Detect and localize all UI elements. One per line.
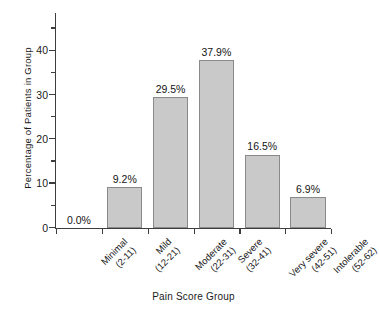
- x-tick: [148, 229, 149, 234]
- bar-value-label: 6.9%: [278, 184, 338, 195]
- y-axis-line: [55, 13, 56, 228]
- x-category-label: Intolerable(52-62): [331, 236, 379, 284]
- y-tick-minor: [51, 27, 55, 28]
- plot-area: 010203040 0.0%9.2%29.5%37.9%16.5%6.9%: [56, 13, 331, 228]
- y-tick-label: 10: [8, 178, 48, 189]
- y-tick-minor: [51, 205, 55, 206]
- y-tick-major: [49, 182, 55, 183]
- x-category-label: Minimal(2-11): [98, 236, 137, 275]
- bar[interactable]: [153, 97, 188, 228]
- bar[interactable]: [245, 155, 280, 228]
- x-axis-title: Pain Score Group: [56, 291, 331, 302]
- y-tick-major: [49, 227, 55, 228]
- x-category-label: Severe(32-41): [235, 236, 273, 274]
- x-category-label: Very severe(42-51): [287, 236, 339, 288]
- bar-value-label: 29.5%: [141, 84, 201, 95]
- bar-value-label: 37.9%: [186, 47, 246, 58]
- bar[interactable]: [290, 197, 325, 228]
- x-tick: [56, 229, 57, 234]
- y-tick-label: 30: [8, 90, 48, 101]
- x-tick: [239, 229, 240, 234]
- bar-value-label: 0.0%: [49, 215, 109, 226]
- bar[interactable]: [199, 60, 234, 228]
- bar[interactable]: [107, 187, 142, 228]
- y-tick-minor: [51, 160, 55, 161]
- y-tick-label: 40: [8, 45, 48, 56]
- x-category-label: Moderate(22-31): [192, 236, 237, 281]
- y-tick-minor: [51, 72, 55, 73]
- y-tick-minor: [51, 116, 55, 117]
- y-tick-label: 20: [8, 134, 48, 145]
- x-tick: [331, 229, 332, 234]
- x-category-label: Mild(12-21): [144, 236, 182, 274]
- bar-value-label: 9.2%: [95, 174, 155, 185]
- bar-value-label: 16.5%: [232, 141, 292, 152]
- x-tick: [285, 229, 286, 234]
- y-tick-major: [49, 138, 55, 139]
- x-tick: [194, 229, 195, 234]
- x-tick: [102, 229, 103, 234]
- y-tick-label: 0: [8, 223, 48, 234]
- y-tick-major: [49, 94, 55, 95]
- y-tick-major: [49, 50, 55, 51]
- y-axis-title: Percentage of Patients in Group: [20, 0, 36, 238]
